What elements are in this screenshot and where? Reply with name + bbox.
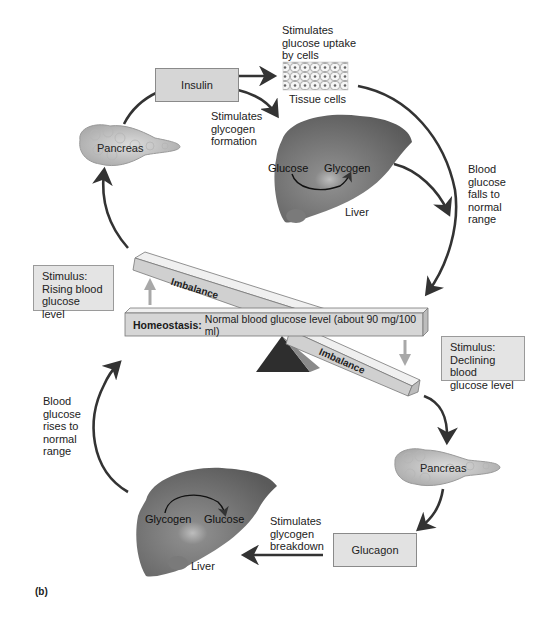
tissue-cells-image xyxy=(283,62,348,90)
panel-label: (b) xyxy=(35,586,48,597)
glucagon-label: Glucagon xyxy=(351,544,398,556)
homeostasis-label: Homeostasis: Normal blood glucose level … xyxy=(127,314,423,335)
glucose-falls-note: Blood glucose falls to normal range xyxy=(468,163,506,226)
pancreas-bottom-label: Pancreas xyxy=(420,462,466,475)
insulin-label: Insulin xyxy=(181,79,213,91)
insulin-box: Insulin xyxy=(155,68,239,102)
uptake-note: Stimulates glucose uptake by cells xyxy=(282,24,356,62)
liver-top-from: Glucose xyxy=(268,162,308,175)
liver-top-label: Liver xyxy=(345,206,369,219)
liver-bottom-label: Liver xyxy=(191,560,215,573)
liver-bottom-from: Glycogen xyxy=(145,513,191,526)
glucagon-box: Glucagon xyxy=(333,533,417,567)
stimulus-declining-box: Stimulus: Declining blood glucose level xyxy=(441,336,525,381)
tissue-cells-label: Tissue cells xyxy=(289,93,346,106)
homeostasis-value: Normal blood glucose level (about 90 mg/… xyxy=(205,313,423,337)
stimulus-rising-box: Stimulus: Rising blood glucose level xyxy=(33,265,114,311)
glycogen-breakdown-note: Stimulates glycogen breakdown xyxy=(270,515,324,553)
pancreas-top-label: Pancreas xyxy=(97,142,143,155)
glycogen-formation-note: Stimulates glycogen formation xyxy=(211,110,262,148)
liver-top-to: Glycogen xyxy=(324,162,370,175)
glucose-rises-note: Blood glucose rises to normal range xyxy=(43,395,81,458)
homeostasis-title: Homeostasis: xyxy=(133,319,202,331)
liver-bottom-to: Glucose xyxy=(204,513,244,526)
